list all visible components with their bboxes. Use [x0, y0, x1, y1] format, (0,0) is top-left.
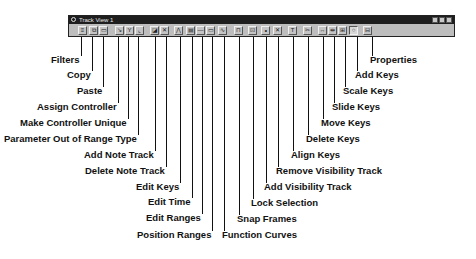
leader-line [253, 37, 254, 199]
callout-label: Properties [370, 54, 417, 65]
leader-line [103, 37, 104, 87]
callout-label: Edit Time [148, 196, 191, 207]
filters-button[interactable]: ≡ [78, 26, 87, 35]
callout-label: Lock Selection [251, 197, 318, 208]
lock-selection-button[interactable]: ⊡ [248, 26, 257, 35]
make-controller-unique-button[interactable]: Y [125, 26, 134, 35]
callout-label: Remove Visibility Track [276, 165, 382, 176]
assign-controller-button[interactable]: ↘ [115, 26, 124, 35]
edit-keys-button[interactable]: ⋀ [174, 26, 183, 35]
window-controls [432, 17, 452, 23]
leader-line [212, 37, 213, 231]
properties-button[interactable]: ⊟ [363, 26, 372, 35]
maximize-icon[interactable] [439, 17, 445, 23]
assign-controller-icon: ↘ [117, 27, 122, 33]
callout-label: Delete Keys [306, 133, 360, 144]
leader-line [357, 37, 358, 71]
leader-line [345, 37, 346, 87]
leader-line [224, 37, 225, 231]
properties-icon: ⊟ [365, 27, 370, 33]
leader-line [81, 37, 82, 56]
align-keys-button[interactable]: T [288, 26, 297, 35]
delete-note-track-button[interactable]: ✕ [160, 26, 169, 35]
add-visibility-track-button[interactable]: ∘ [261, 26, 270, 35]
edit-time-icon: ▤ [188, 27, 194, 33]
parameter-out-of-range-type-button[interactable]: ⌞ [135, 26, 144, 35]
align-keys-icon: T [291, 27, 295, 33]
add-note-track-button[interactable]: ◪ [150, 26, 159, 35]
filter-icon: ≡ [81, 27, 85, 33]
move-keys-icon: ↔ [320, 27, 326, 33]
copy-button[interactable]: ⧉ [89, 26, 98, 35]
delete-keys-button[interactable]: ✂ [303, 26, 312, 35]
callout-label: Function Curves [222, 229, 297, 240]
snap-frames-icon: ⊓ [236, 27, 241, 33]
callout-label: Delete Note Track [85, 165, 165, 176]
remove-visibility-track-button[interactable]: ✕ [273, 26, 282, 35]
leader-line [202, 37, 203, 214]
move-keys-button[interactable]: ↔ [318, 26, 327, 35]
leader-line [239, 37, 240, 215]
callout-label: Add Keys [355, 69, 399, 80]
position-ranges-icon: ▭ [208, 27, 214, 33]
add-keys-icon: ○ [352, 27, 356, 33]
leader-line [92, 37, 93, 71]
snap-frames-button[interactable]: ⊓ [234, 26, 243, 35]
out-of-range-icon: ⌞ [138, 27, 141, 33]
make-unique-icon: Y [127, 27, 131, 33]
callout-label: Add Visibility Track [264, 181, 351, 192]
callout-label: Paste [77, 85, 102, 96]
leader-line [293, 37, 294, 151]
delete-keys-icon: ✂ [305, 27, 310, 33]
callout-label: Edit Ranges [146, 212, 201, 223]
callout-label: Copy [67, 69, 91, 80]
edit-keys-icon: ⋀ [176, 27, 181, 33]
function-curves-icon: ∿ [220, 27, 225, 33]
callout-label: Parameter Out of Range Type [4, 133, 137, 144]
scale-keys-icon: ⊞ [340, 27, 345, 33]
leader-line [118, 37, 119, 103]
edit-ranges-icon: — [198, 27, 204, 33]
paste-icon: ▭ [101, 27, 107, 33]
callout-label: Scale Keys [343, 85, 393, 96]
window-title: Track View 1 [79, 16, 113, 24]
leader-line [128, 37, 129, 119]
callout-label: Move Keys [321, 117, 371, 128]
add-keys-button[interactable]: ○ [349, 26, 358, 35]
paste-button[interactable]: ▭ [99, 26, 108, 35]
edit-ranges-button[interactable]: — [196, 26, 205, 35]
callout-label: Filters [51, 54, 80, 65]
minimize-icon[interactable] [432, 17, 438, 23]
delete-note-track-icon: ✕ [162, 27, 167, 33]
callout-label: Make Controller Unique [20, 117, 127, 128]
add-visibility-track-icon: ∘ [264, 27, 268, 33]
callout-label: Add Note Track [84, 149, 154, 160]
edit-time-button[interactable]: ▤ [186, 26, 195, 35]
slide-keys-button[interactable]: ⇹ [328, 26, 337, 35]
leader-line [334, 37, 335, 103]
position-ranges-button[interactable]: ▭ [206, 26, 215, 35]
track-view-window: Track View 1 ≡⧉▭↘Y⌞◪✕⋀▤—▭∿⊓⊡∘✕T✂↔⇹⊞○⊟ [68, 15, 455, 37]
app-icon [71, 17, 76, 22]
add-note-track-icon: ◪ [152, 27, 158, 33]
callout-label: Align Keys [291, 149, 340, 160]
lock-icon: ⊡ [250, 27, 255, 33]
callout-label: Edit Keys [136, 181, 179, 192]
leader-line [138, 37, 139, 135]
leader-line [308, 37, 309, 135]
scale-keys-button[interactable]: ⊞ [338, 26, 347, 35]
leader-line [278, 37, 279, 167]
callout-label: Slide Keys [332, 101, 380, 112]
function-curves-button[interactable]: ∿ [218, 26, 227, 35]
close-icon[interactable] [446, 17, 452, 23]
title-bar[interactable]: Track View 1 [69, 16, 454, 24]
remove-visibility-track-icon: ✕ [275, 27, 280, 33]
toolbar: ≡⧉▭↘Y⌞◪✕⋀▤—▭∿⊓⊡∘✕T✂↔⇹⊞○⊟ [69, 24, 454, 37]
leader-line [323, 37, 324, 119]
callout-label: Position Ranges [137, 229, 211, 240]
leader-line [192, 37, 193, 198]
copy-icon: ⧉ [92, 27, 96, 33]
slide-keys-icon: ⇹ [330, 27, 335, 33]
leader-line [266, 37, 267, 183]
leader-line [180, 37, 181, 183]
